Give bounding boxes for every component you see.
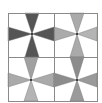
wedge-top (25, 13, 39, 34)
center-point (31, 33, 33, 35)
tile-bottom-right (54, 57, 97, 101)
grid-lines (8, 13, 98, 102)
wedge-top (70, 13, 84, 34)
wedge-right (77, 27, 97, 41)
wedge-right (31, 73, 54, 87)
tile-top-right (54, 13, 97, 57)
tile-top-left (8, 13, 54, 57)
wedge-left (54, 27, 77, 41)
wedge-bottom (25, 34, 39, 57)
wedge-right (77, 73, 97, 87)
wedge-top (70, 57, 84, 80)
center-point (76, 79, 78, 81)
center-point (30, 79, 32, 81)
wedge-bottom (70, 34, 84, 57)
center-point (76, 33, 78, 35)
wedge-left (8, 27, 32, 41)
wedge-left (54, 73, 77, 87)
wedge-bottom (24, 80, 38, 101)
wedge-right (32, 27, 54, 41)
pinwheel-diagram (0, 0, 102, 103)
wedge-bottom (70, 80, 84, 101)
wedge-top (24, 57, 38, 80)
tile-bottom-left (8, 57, 54, 101)
wedge-left (8, 73, 31, 87)
